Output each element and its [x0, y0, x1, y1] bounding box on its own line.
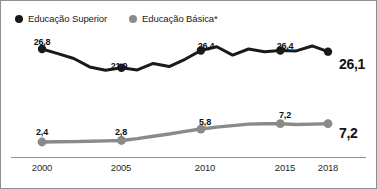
x-axis-line	[11, 157, 366, 158]
data-label-superior-2005: 21,9	[111, 61, 128, 71]
data-label-basica-2015: 7,2	[279, 110, 291, 120]
data-point-marker	[117, 136, 126, 145]
data-label-basica-2005: 2,8	[115, 127, 127, 137]
data-point-marker	[276, 119, 285, 128]
x-axis-tick-2000: 2000	[32, 162, 52, 173]
data-label-superior-end: 26,1	[339, 56, 365, 72]
data-label-superior-2000: 26,8	[34, 37, 51, 47]
data-label-basica-2010: 5,8	[199, 117, 211, 127]
data-label-superior-2010: 26,4	[198, 41, 215, 51]
x-axis-tick-2005: 2005	[111, 162, 131, 173]
data-point-marker	[38, 138, 47, 147]
chart-card: Educação Superior Educação Básica* 26,8 …	[0, 0, 377, 189]
data-label-basica-end: 7,2	[339, 125, 358, 141]
x-axis-tick-2010: 2010	[195, 162, 215, 173]
data-point-marker	[324, 47, 332, 55]
plot-area	[1, 1, 377, 189]
x-axis-tick-2015: 2015	[275, 162, 295, 173]
series-line-educacao-basica	[42, 124, 328, 142]
data-point-marker	[324, 119, 333, 128]
x-axis-tick-2018: 2018	[318, 162, 338, 173]
data-label-superior-2015: 26,4	[277, 41, 294, 51]
data-label-basica-2000: 2,4	[36, 127, 48, 137]
